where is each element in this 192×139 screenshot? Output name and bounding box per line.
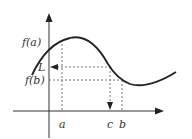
function-curve [32, 37, 176, 85]
label-f-a: f(a) [21, 36, 41, 49]
function-graph: f(a) L f(b) a c b [0, 0, 192, 139]
c-arrow-icon [107, 102, 113, 110]
L-arrow-icon [50, 64, 58, 70]
label-f-b: f(b) [24, 74, 45, 87]
x-axis-arrow-icon [155, 108, 164, 115]
y-axis-arrow-icon [46, 13, 53, 22]
label-b: b [119, 118, 126, 131]
label-c: c [107, 118, 113, 131]
label-L: L [37, 61, 45, 74]
label-a: a [59, 118, 66, 131]
diagram-canvas: f(a) L f(b) a c b [0, 0, 192, 139]
